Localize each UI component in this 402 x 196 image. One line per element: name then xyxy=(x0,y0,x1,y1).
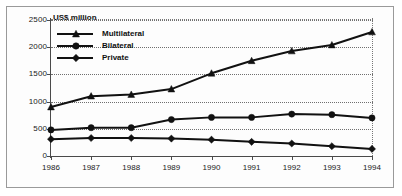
x-tick-mark xyxy=(332,156,333,160)
plot-right-edge xyxy=(372,18,373,158)
x-tick-label: 1986 xyxy=(29,163,73,172)
chart-figure: US$ million 05001000150020002500 1986198… xyxy=(0,0,402,196)
x-tick-mark xyxy=(91,156,92,160)
y-tick-label: 1500 xyxy=(3,70,47,78)
x-tick-label: 1989 xyxy=(149,163,193,172)
legend-marker-diamond-icon xyxy=(72,54,80,62)
gridline-2500 xyxy=(51,20,373,21)
y-tick-label: 2000 xyxy=(3,43,47,51)
plot-top-edge xyxy=(51,19,373,20)
x-tick-mark xyxy=(131,156,132,160)
x-tick-mark xyxy=(51,156,52,160)
y-tick-mark xyxy=(47,102,51,103)
gridline-1500 xyxy=(51,74,373,75)
y-tick-mark xyxy=(47,129,51,130)
y-tick-mark xyxy=(47,20,51,21)
y-tick-label: 0 xyxy=(3,152,47,160)
x-tick-label: 1990 xyxy=(190,163,234,172)
x-tick-mark xyxy=(171,156,172,160)
legend-marker-triangle-icon xyxy=(72,30,80,38)
y-tick-label: 1000 xyxy=(3,98,47,106)
legend-marker-circle-icon xyxy=(72,42,80,50)
y-axis-line xyxy=(50,18,51,158)
x-tick-label: 1991 xyxy=(230,163,274,172)
chart-legend: MultilateralBilateralPrivate xyxy=(57,28,165,64)
y-tick-mark xyxy=(47,74,51,75)
y-tick-label: 500 xyxy=(3,125,47,133)
x-tick-label: 1993 xyxy=(310,163,354,172)
legend-label: Multilateral xyxy=(102,28,144,40)
gridline-1000 xyxy=(51,102,373,103)
x-tick-mark xyxy=(212,156,213,160)
y-tick-mark xyxy=(47,47,51,48)
y-tick-label: 2500 xyxy=(3,16,47,24)
x-tick-label: 1987 xyxy=(69,163,113,172)
legend-item-multilateral: Multilateral xyxy=(57,28,165,40)
gridline-500 xyxy=(51,129,373,130)
x-tick-mark xyxy=(292,156,293,160)
x-tick-mark xyxy=(372,156,373,160)
x-tick-label: 1988 xyxy=(109,163,153,172)
legend-label: Private xyxy=(102,52,129,64)
legend-item-bilateral: Bilateral xyxy=(57,40,165,52)
legend-item-private: Private xyxy=(57,52,165,64)
x-tick-label: 1992 xyxy=(270,163,314,172)
legend-label: Bilateral xyxy=(102,40,134,52)
x-tick-mark xyxy=(252,156,253,160)
x-tick-label: 1994 xyxy=(350,163,394,172)
